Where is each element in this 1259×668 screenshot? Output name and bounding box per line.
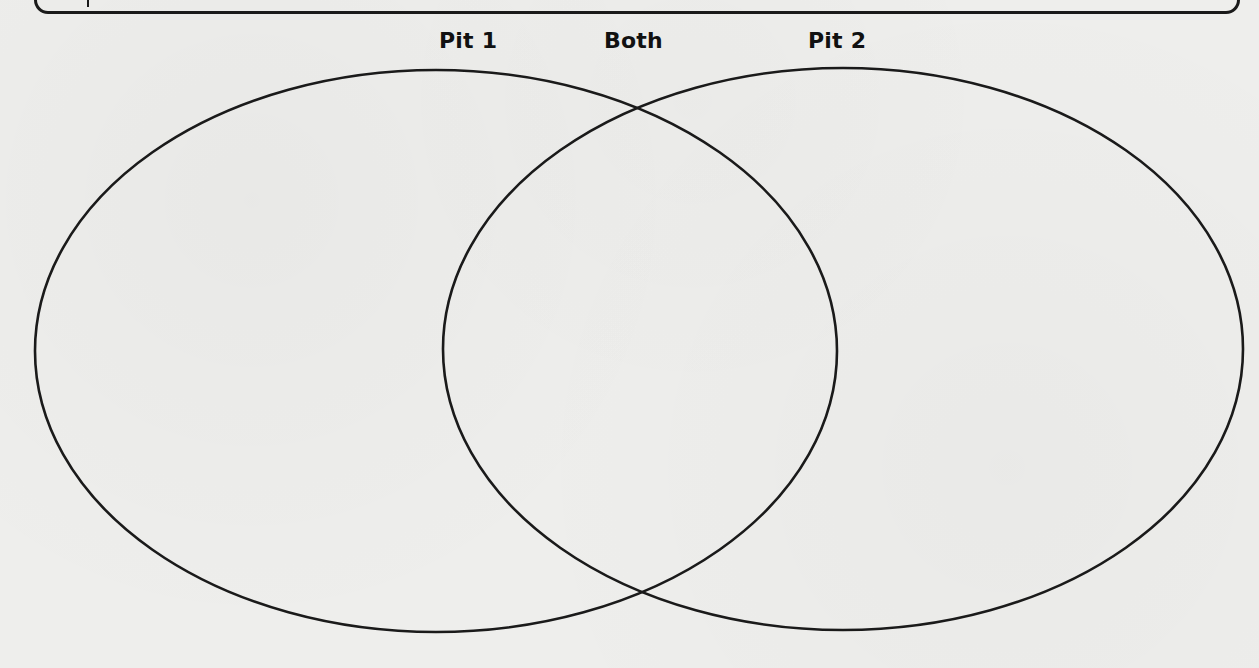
pit2-circle[interactable] [443,68,1243,630]
pit2-label: Pit 2 [808,28,866,53]
both-label: Both [604,28,663,53]
venn-diagram [0,0,1259,668]
pit1-circle[interactable] [35,70,837,632]
pit1-label: Pit 1 [439,28,497,53]
